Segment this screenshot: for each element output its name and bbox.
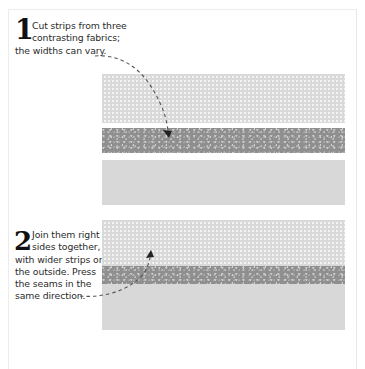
step-1-line-2: contrasting fabrics; — [32, 32, 120, 44]
step-1-line-1: Cut strips from three — [32, 20, 127, 32]
joined-strip-plain-fabric — [102, 284, 345, 330]
joined-strip-speckled-fabric — [102, 266, 345, 284]
step-2-number: 2 — [14, 228, 32, 255]
step-2-line-6: same direction. — [15, 290, 85, 302]
joined-strip-dotted-fabric — [102, 220, 345, 266]
strip-plain-fabric — [102, 160, 345, 205]
step-2-line-3: with wider strips on — [15, 254, 104, 266]
step-2-line-4: the outside. Press — [15, 266, 96, 278]
step-1-number: 1 — [15, 16, 34, 44]
step-2-line-1: Join them right — [32, 229, 99, 241]
step-1-line-3: the widths can vary. — [15, 45, 106, 57]
step-2-line-5: the seams in the — [15, 278, 91, 290]
step-2-line-2: sides together, — [32, 241, 100, 253]
strip-speckled-fabric — [102, 128, 345, 153]
strip-dotted-fabric — [102, 74, 345, 123]
